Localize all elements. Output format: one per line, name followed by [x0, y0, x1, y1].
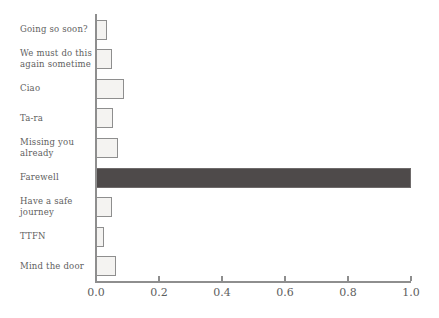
bar-highlighted: [96, 168, 411, 188]
category-label: Farewell: [20, 163, 96, 193]
bar-row: Farewell: [20, 163, 411, 193]
bar-row: Missing you already: [20, 133, 411, 163]
category-label: Have a safe journey: [20, 192, 96, 222]
bar-row: Have a safe journey: [20, 192, 411, 222]
bar-track: [96, 15, 411, 45]
bar-chart: Going so soon?We must do this again some…: [0, 0, 439, 318]
bar: [96, 20, 107, 40]
x-tick-label: 0.6: [276, 286, 294, 299]
x-tick-mark: [158, 276, 159, 281]
category-label: Mind the door: [20, 252, 96, 282]
category-label: Ciao: [20, 74, 96, 104]
bar-track: [96, 133, 411, 163]
bar: [96, 227, 104, 247]
x-tick-label: 0.2: [150, 286, 168, 299]
bar: [96, 197, 112, 217]
x-tick-mark: [95, 276, 96, 281]
bar-row: Ta-ra: [20, 104, 411, 134]
bar-track: [96, 163, 411, 193]
bar-row: We must do this again sometime: [20, 45, 411, 75]
bar-track: [96, 222, 411, 252]
x-tick-label: 0.8: [339, 286, 357, 299]
bar: [96, 256, 116, 276]
bar-row: Mind the door: [20, 252, 411, 282]
bar-track: [96, 74, 411, 104]
x-tick-mark: [410, 276, 411, 281]
category-label: TTFN: [20, 222, 96, 252]
bar-track: [96, 252, 411, 282]
bar-track: [96, 192, 411, 222]
bar: [96, 49, 112, 69]
bar-track: [96, 104, 411, 134]
x-tick-mark: [284, 276, 285, 281]
bar: [96, 79, 124, 99]
x-tick-label: 0.0: [87, 286, 105, 299]
category-label: Missing you already: [20, 133, 96, 163]
x-tick-label: 1.0: [402, 286, 420, 299]
x-axis-line: [95, 281, 411, 283]
bar-rows: Going so soon?We must do this again some…: [20, 15, 411, 281]
category-label: Ta-ra: [20, 104, 96, 134]
bar-track: [96, 45, 411, 75]
bar: [96, 138, 118, 158]
bar: [96, 108, 113, 128]
bar-row: TTFN: [20, 222, 411, 252]
y-axis-line: [95, 14, 97, 282]
x-tick-mark: [221, 276, 222, 281]
bar-row: Going so soon?: [20, 15, 411, 45]
bar-row: Ciao: [20, 74, 411, 104]
category-label: We must do this again sometime: [20, 45, 96, 75]
category-label: Going so soon?: [20, 15, 96, 45]
x-tick-mark: [347, 276, 348, 281]
x-tick-label: 0.4: [213, 286, 231, 299]
